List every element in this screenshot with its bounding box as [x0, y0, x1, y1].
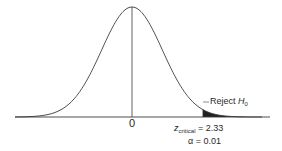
z-critical-label: zcritical = 2.33 [174, 124, 223, 134]
normal-distribution-chart [0, 0, 282, 151]
reject-h-subscript: 0 [245, 101, 248, 107]
alpha-label: α = 0.01 [188, 137, 221, 146]
z-subscript: critical [179, 128, 196, 134]
reject-text: Reject [210, 96, 238, 106]
z-critical-value: = 2.33 [198, 123, 223, 133]
mean-tick-label: 0 [129, 118, 135, 129]
reject-h0-label: Reject H0 [210, 97, 248, 107]
